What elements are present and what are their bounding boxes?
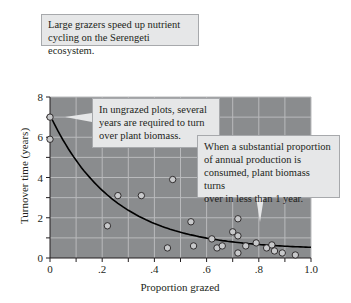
callout-line: years are required to turn	[99, 116, 213, 129]
data-point	[47, 136, 53, 142]
data-point	[271, 248, 277, 254]
svg-text:0: 0	[47, 263, 53, 275]
svg-text:1.0: 1.0	[304, 263, 318, 275]
callout-line: consumed, plant biomass turns	[204, 166, 333, 192]
data-point	[169, 176, 175, 182]
callout-grazed: When a substantial proportion of annual …	[197, 135, 340, 198]
data-point	[235, 216, 241, 222]
svg-text:4: 4	[38, 172, 44, 184]
x-axis-label: Proportion grazed	[130, 281, 230, 293]
data-point	[164, 245, 170, 251]
data-point	[279, 250, 285, 256]
svg-text:8: 8	[38, 91, 44, 103]
data-point	[138, 192, 144, 198]
data-point	[209, 236, 215, 242]
callout-line: When a substantial proportion	[204, 140, 333, 153]
callout-line: over in less than 1 year.	[204, 192, 333, 205]
y-axis-label: Turnover time (years)	[18, 126, 30, 226]
svg-text:.8: .8	[255, 263, 264, 275]
data-point	[269, 242, 275, 248]
svg-text:2: 2	[38, 212, 44, 224]
data-point	[188, 219, 194, 225]
callout-line: In ungrazed plots, several	[99, 103, 213, 116]
svg-text:0: 0	[38, 252, 44, 264]
svg-text:.4: .4	[150, 263, 159, 275]
data-point	[243, 243, 249, 249]
data-point	[219, 243, 225, 249]
data-point	[190, 243, 196, 249]
callout-line: of annual production is	[204, 153, 333, 166]
data-point	[235, 233, 241, 239]
data-point	[235, 250, 241, 256]
data-point	[292, 252, 298, 258]
svg-text:6: 6	[38, 131, 44, 143]
data-point	[253, 240, 259, 246]
svg-text:.2: .2	[98, 263, 106, 275]
svg-text:.6: .6	[202, 263, 211, 275]
callout-line: over plant biomass.	[99, 129, 213, 142]
data-point	[47, 114, 53, 120]
data-point	[104, 223, 110, 229]
data-point	[115, 192, 121, 198]
